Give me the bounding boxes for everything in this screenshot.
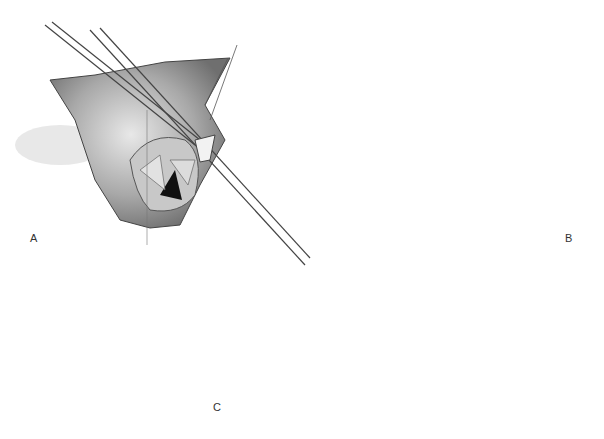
panel-label-c: C — [213, 401, 221, 413]
panel-label-a: A — [30, 232, 37, 244]
panel-label-b: B — [565, 232, 572, 244]
illustration-canvas — [0, 0, 604, 439]
panel-a-illustration — [15, 22, 310, 265]
